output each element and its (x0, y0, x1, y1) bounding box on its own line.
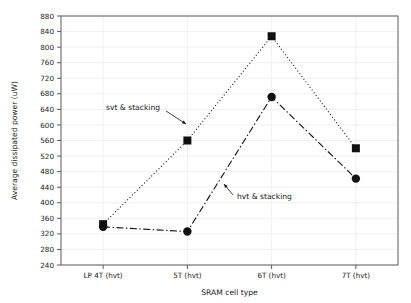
y-tick-label: 640 (40, 105, 54, 114)
y-tick-label: 560 (40, 136, 54, 145)
y-tick-label: 320 (40, 229, 54, 238)
y-tick-label: 360 (40, 214, 54, 223)
y-tick-label: 840 (40, 27, 54, 36)
line-chart: 2402803203604004404805205606006406807207… (0, 0, 411, 303)
data-point-circle (352, 174, 360, 182)
y-tick-label: 240 (40, 261, 54, 270)
x-axis-title: SRAM cell type (201, 288, 258, 297)
y-axis-ticks: 2402803203604004404805205606006406807207… (40, 12, 61, 270)
data-point-circle (267, 93, 275, 101)
y-tick-label: 440 (40, 183, 54, 192)
x-tick-label: LP 4T (hvt) (84, 271, 123, 280)
y-tick-label: 880 (40, 12, 54, 21)
y-tick-label: 600 (40, 121, 54, 130)
x-tick-label: 6T (hvt) (257, 271, 286, 280)
data-point-circle (183, 227, 191, 235)
data-point-square (352, 144, 360, 152)
y-tick-label: 760 (40, 58, 54, 67)
data-point-circle (99, 223, 107, 231)
annotation-label-svt: svt & stacking (106, 103, 160, 112)
x-tick-label: 7T (hvt) (342, 271, 371, 280)
chart-container: 2402803203604004404805205606006406807207… (0, 0, 411, 303)
x-axis-ticks: LP 4T (hvt)5T (hvt)6T (hvt)7T (hvt) (84, 265, 371, 280)
x-tick-label: 5T (hvt) (173, 271, 202, 280)
y-tick-label: 280 (40, 245, 54, 254)
data-point-square (268, 32, 276, 40)
annotation-label-hvt: hvt & stacking (237, 192, 292, 201)
y-tick-label: 480 (40, 167, 54, 176)
y-tick-label: 800 (40, 43, 54, 52)
y-tick-label: 720 (40, 74, 54, 83)
y-tick-label: 400 (40, 198, 54, 207)
y-axis-title: Average dissipated power (uW) (10, 81, 19, 200)
y-tick-label: 680 (40, 89, 54, 98)
data-point-square (183, 137, 191, 145)
y-tick-label: 520 (40, 152, 54, 161)
